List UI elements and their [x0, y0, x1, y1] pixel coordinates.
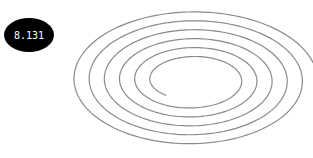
spiral-icon [0, 0, 313, 158]
spiral-path [74, 12, 313, 144]
